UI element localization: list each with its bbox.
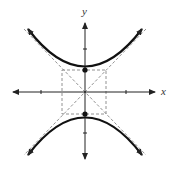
y-axis-label: y	[81, 5, 87, 17]
hyperbola-diagram: y x	[0, 0, 173, 171]
graph: y x	[0, 0, 173, 171]
upper-vertex	[82, 67, 87, 72]
x-axis-label: x	[160, 85, 166, 97]
origin	[84, 91, 86, 93]
lower-vertex	[82, 111, 87, 116]
